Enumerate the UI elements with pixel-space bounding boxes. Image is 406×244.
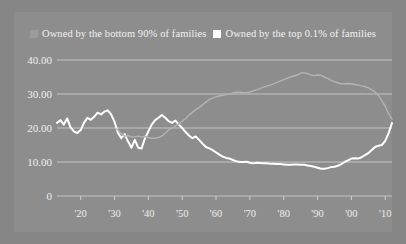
x-tick-label: '50 — [176, 209, 188, 220]
gridlines — [57, 60, 392, 196]
x-tick-label: '70 — [244, 209, 256, 220]
x-tick-label: '20 — [74, 209, 86, 220]
x-tick-label: '60 — [210, 209, 222, 220]
x-tick-label: '30 — [108, 209, 120, 220]
chart-figure: Owned by the bottom 90% of families Owne… — [0, 0, 406, 244]
y-tick-label: 40.00 — [6, 55, 52, 66]
x-tick-label: '00 — [345, 209, 357, 220]
series-lines — [57, 73, 392, 169]
y-tick-label: 10.00 — [6, 157, 52, 168]
y-tick-label: 0 — [6, 191, 52, 202]
y-tick-label: 30.00 — [6, 89, 52, 100]
x-tick-marks — [81, 196, 386, 200]
x-tick-label: '80 — [278, 209, 290, 220]
plot-area: 010.0020.0030.0040.00 '20'30'40'50'60'70… — [0, 0, 406, 244]
x-tick-label: '10 — [379, 209, 391, 220]
series-line — [57, 110, 392, 168]
x-tick-label: '90 — [311, 209, 323, 220]
y-tick-label: 20.00 — [6, 123, 52, 134]
x-tick-label: '40 — [142, 209, 154, 220]
